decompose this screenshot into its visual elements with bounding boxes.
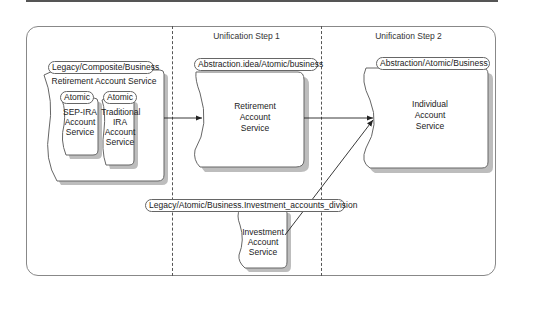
step1-line-2: Account <box>215 112 295 123</box>
traditional-ira-line-4: Service <box>101 137 139 147</box>
traditional-ira-line-1: Traditional <box>101 107 139 117</box>
investment-stereotype: Legacy/Atomic/Business.Investment_accoun… <box>145 199 345 212</box>
legacy-composite-stereotype: Legacy/Composite/Business <box>48 61 154 74</box>
diagram-shapes <box>0 0 536 324</box>
sep-ira-name: SEP-IRA Account Service <box>62 107 98 137</box>
step2-name: Individual Account Service <box>390 99 470 132</box>
investment-line-1: Investment <box>238 227 288 237</box>
step1-name: Retirement Account Service <box>215 101 295 134</box>
legacy-composite-name: Retirement Account Service <box>48 76 160 87</box>
traditional-ira-name: Traditional IRA Account Service <box>101 107 139 147</box>
step2-line-1: Individual <box>390 99 470 110</box>
sep-ira-line-3: Service <box>62 127 98 137</box>
sep-ira-line-1: SEP-IRA <box>62 107 98 117</box>
step2-line-3: Service <box>390 121 470 132</box>
traditional-ira-line-3: Account <box>101 127 139 137</box>
sep-ira-line-2: Account <box>62 117 98 127</box>
step1-stereotype: Abstraction.idea/Atomic/business <box>194 58 318 71</box>
step1-line-3: Service <box>215 123 295 134</box>
investment-line-2: Account <box>238 237 288 247</box>
investment-line-3: Service <box>238 247 288 257</box>
sep-ira-stereotype: Atomic <box>60 91 94 104</box>
investment-name: Investment Account Service <box>238 227 288 257</box>
traditional-ira-line-2: IRA <box>101 117 139 127</box>
step2-line-2: Account <box>390 110 470 121</box>
step2-stereotype: Abstraction/Atomic/Business <box>376 57 490 70</box>
step1-line-1: Retirement <box>215 101 295 112</box>
traditional-ira-stereotype: Atomic <box>103 91 137 104</box>
